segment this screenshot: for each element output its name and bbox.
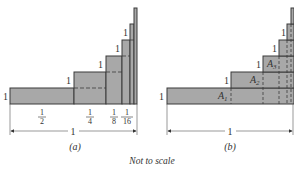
caption-not-to-scale: Not to scale: [128, 156, 174, 166]
height-label-b-2: 1: [224, 75, 229, 86]
rect-b-5: [287, 24, 294, 40]
height-label-b-3: 1: [256, 59, 261, 70]
rect-b-2: [231, 72, 294, 88]
height-label-a-5: 1: [123, 27, 128, 38]
panel-label-a: (a): [69, 141, 81, 153]
svg-text:2: 2: [40, 117, 44, 126]
rect-a-6: [134, 8, 137, 104]
rect-a-4: [122, 40, 130, 104]
height-label-a-4: 1: [115, 43, 120, 54]
rect-a-3: [106, 56, 122, 104]
svg-text:1: 1: [40, 108, 44, 117]
width-fraction-a-3: 1 8: [110, 108, 118, 126]
height-label-a-2: 1: [66, 75, 71, 86]
panel-a: 1 1 1 1 1 1 2 1 4 1 8 1 16: [3, 8, 137, 153]
width-fraction-a-1: 1 2: [38, 108, 46, 126]
height-label-b-1: 1: [159, 91, 164, 102]
width-fraction-a-2: 1 4: [86, 108, 94, 126]
rect-b-6: [291, 8, 294, 24]
diagram: 1 1 1 1 1 1 2 1 4 1 8 1 16: [0, 0, 294, 172]
rect-a-1: [10, 88, 74, 104]
height-label-a-1: 1: [3, 91, 8, 102]
rect-b-4: [279, 40, 294, 56]
svg-text:8: 8: [112, 117, 116, 126]
height-label-a-3: 1: [98, 59, 103, 70]
svg-text:1: 1: [125, 108, 129, 117]
rect-a-5: [130, 24, 134, 104]
svg-text:1: 1: [112, 108, 116, 117]
height-label-b-5: 1: [281, 27, 286, 38]
panel-label-b: (b): [224, 141, 236, 153]
width-fraction-a-4: 1 16: [121, 108, 133, 126]
total-width-label-b: 1: [228, 126, 233, 137]
svg-text:1: 1: [88, 108, 92, 117]
height-label-b-4: 1: [272, 43, 277, 54]
svg-text:16: 16: [123, 117, 131, 126]
panel-b: 1 1 1 1 1 A1 A2 A3 1 (b): [159, 8, 294, 153]
svg-text:4: 4: [88, 117, 92, 126]
total-width-label-a: 1: [71, 126, 76, 137]
rect-b-1: [167, 88, 294, 104]
